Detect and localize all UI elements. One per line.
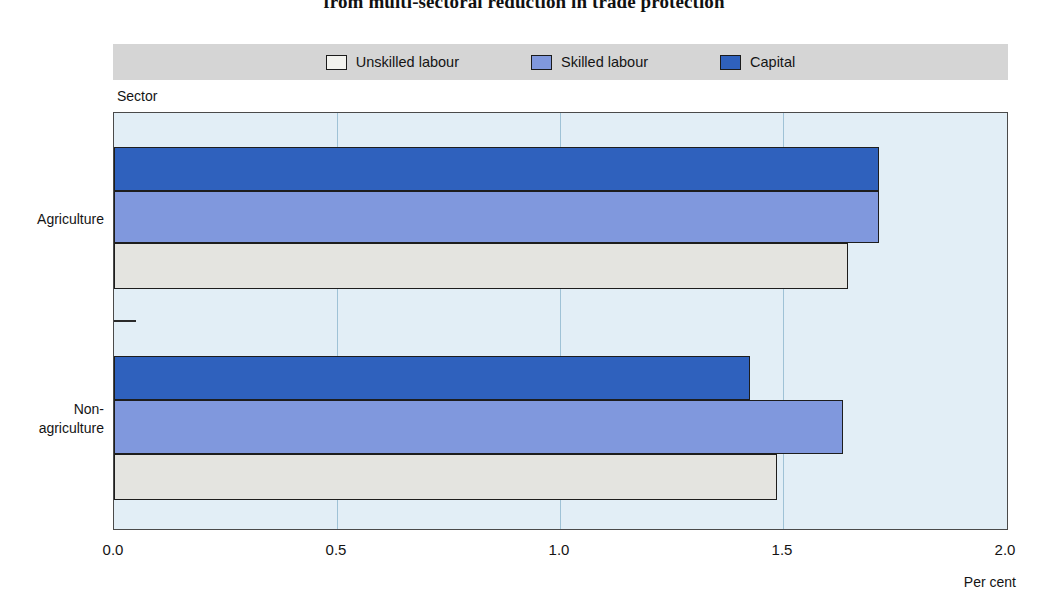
legend-label-unskilled-labour: Unskilled labour [356, 55, 459, 70]
category-label-agriculture: Agriculture [0, 211, 104, 227]
chart-title-text: from multi-sectoral reduction in trade p… [323, 0, 724, 12]
bar-non-agriculture-capital[interactable] [114, 356, 750, 400]
legend-label-capital: Capital [750, 55, 795, 70]
x-tick-3: 1.5 [772, 541, 793, 558]
category-label-non-agriculture-line1: Non- [0, 400, 104, 419]
legend-swatch-skilled-labour [531, 55, 552, 70]
x-tick-1: 0.5 [326, 541, 347, 558]
category-label-agriculture-line1: Agriculture [37, 211, 104, 227]
legend-item-unskilled-labour[interactable]: Unskilled labour [326, 55, 459, 70]
legend-swatch-unskilled-labour [326, 55, 347, 70]
bar-non-agriculture-unskilled-labour[interactable] [114, 454, 777, 500]
x-tick-2: 1.0 [549, 541, 570, 558]
legend-swatch-capital [720, 55, 741, 70]
bar-stub-marker [114, 320, 136, 322]
x-axis-ticks: 0.0 0.5 1.0 1.5 2.0 [0, 541, 1048, 561]
legend-item-capital[interactable]: Capital [720, 55, 795, 70]
plot-area [113, 112, 1008, 530]
chart-legend: Unskilled labour Skilled labour Capital [113, 44, 1008, 80]
bar-agriculture-unskilled-labour[interactable] [114, 243, 848, 289]
x-axis-unit-label: Per cent [0, 574, 1016, 590]
chart-title: from multi-sectoral reduction in trade p… [0, 0, 1048, 13]
legend-label-skilled-labour: Skilled labour [561, 55, 648, 70]
x-tick-4: 2.0 [995, 541, 1016, 558]
category-label-non-agriculture: Non- agriculture [0, 400, 104, 438]
bar-agriculture-skilled-labour[interactable] [114, 191, 879, 243]
category-label-non-agriculture-line2: agriculture [0, 419, 104, 438]
legend-item-skilled-labour[interactable]: Skilled labour [531, 55, 648, 70]
y-axis-title: Sector [117, 88, 157, 104]
legend-items: Unskilled labour Skilled labour Capital [113, 44, 1008, 80]
x-tick-0: 0.0 [103, 541, 124, 558]
bar-agriculture-capital[interactable] [114, 147, 879, 191]
bar-non-agriculture-skilled-labour[interactable] [114, 400, 843, 454]
